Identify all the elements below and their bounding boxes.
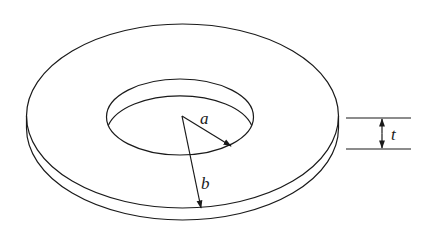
- label-b: b: [201, 174, 210, 193]
- hole-bottom-rim: [109, 96, 252, 125]
- annular-disk-diagram: a b t: [0, 0, 431, 245]
- disk-bottom-outer-edge: [27, 128, 339, 220]
- radius-b-arrow: [182, 116, 201, 208]
- label-t: t: [391, 125, 397, 144]
- hole-top-rim: [107, 79, 254, 155]
- label-a: a: [200, 109, 209, 128]
